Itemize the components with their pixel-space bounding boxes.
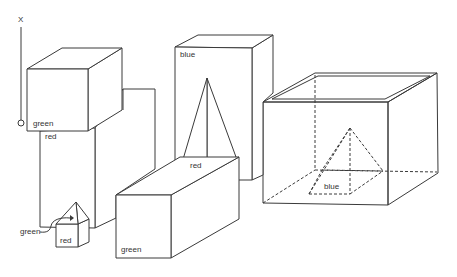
blocks-world-diagram: X green red green red blue red green blu…	[0, 0, 457, 277]
axis-label: X	[18, 16, 23, 24]
label-small-cube: red	[60, 237, 72, 245]
x-axis-marker	[18, 27, 24, 126]
label-tall-pyramid: red	[190, 162, 202, 170]
label-tall-block-left: red	[45, 133, 57, 141]
label-cube-top-left: green	[33, 120, 53, 128]
label-tall-block-center: blue	[180, 51, 195, 59]
label-long-block-front: green	[121, 246, 141, 254]
label-pyramid-in-box: blue	[324, 183, 339, 191]
pyramid-in-box	[309, 128, 383, 194]
label-small-pyramid: green	[20, 228, 40, 236]
